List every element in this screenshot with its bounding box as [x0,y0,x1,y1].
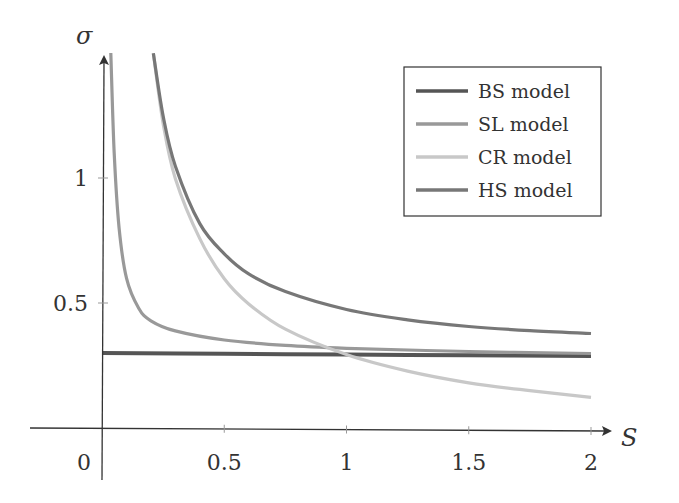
legend-label: BS model [478,80,570,102]
y-axis [102,62,104,480]
x-tick-label: 1.5 [451,450,486,475]
x-axis [30,428,606,431]
x-tick-label: 1 [340,450,354,475]
y-tick-label: 1 [74,166,88,191]
x-tick-label: 2 [584,450,598,475]
x-tick-label: 0.5 [207,450,242,475]
x-tick-label: 0 [77,450,91,475]
chart: 00.511.520.51 S σ BS modelSL modelCR mod… [0,0,679,503]
x-axis-label: S [621,424,637,452]
legend-label: SL model [478,113,569,135]
y-tick-label: 0.5 [53,291,88,316]
legend-label: CR model [478,146,572,168]
legend: BS modelSL modelCR modelHS model [404,67,601,216]
y-axis-label: σ [76,22,93,50]
legend-label: HS model [478,179,573,201]
